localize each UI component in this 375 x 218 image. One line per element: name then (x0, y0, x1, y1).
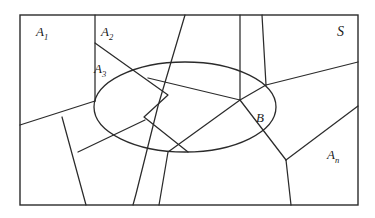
partition-diagram-svg: A 1 A 2 A 3 A n B S (0, 0, 375, 218)
label-a3-sub: 3 (101, 69, 106, 79)
label-sample-space-s: S (337, 24, 344, 39)
label-a2-base: A (100, 24, 109, 39)
label-a3-base: A (93, 61, 102, 76)
label-an-sub: n (335, 155, 339, 165)
label-a1-sub: 1 (44, 32, 48, 42)
label-b: B (256, 110, 264, 125)
probability-partition-figure: A 1 A 2 A 3 A n B S (0, 0, 375, 218)
label-an-base: A (326, 147, 335, 162)
sample-space-border (20, 15, 358, 205)
label-a1-base: A (35, 24, 44, 39)
